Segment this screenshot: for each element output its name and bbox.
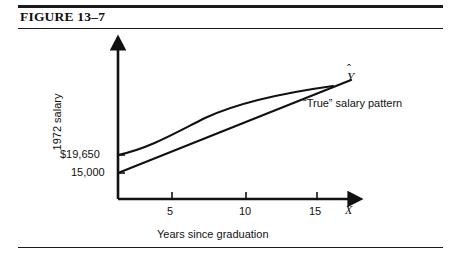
x-tick-label-15: 15 [309,205,321,217]
bottom-divider-rule [18,247,443,248]
fitted-regression-line [118,80,351,173]
y-tick-label-19650: $19,650 [60,148,100,160]
x-axis-variable-label: X [345,203,352,218]
true-salary-curve [118,86,333,155]
x-tick-label-5: 5 [167,205,173,217]
true-pattern-annotation: “True” salary pattern [303,97,402,109]
figure-container: FIGURE 13–7 1972 salary $19,650 15,000 5… [0,0,457,262]
y-tick-label-15000: 15,000 [71,166,105,178]
y-axis-title: 1972 salary [51,89,63,155]
fitted-line-annotation: ˆ Y [347,69,354,85]
x-tick-label-10: 10 [239,205,251,217]
y-hat-accent: ˆ [347,62,351,77]
chart-plot-area [0,0,457,262]
x-axis-title: Years since graduation [157,228,269,240]
